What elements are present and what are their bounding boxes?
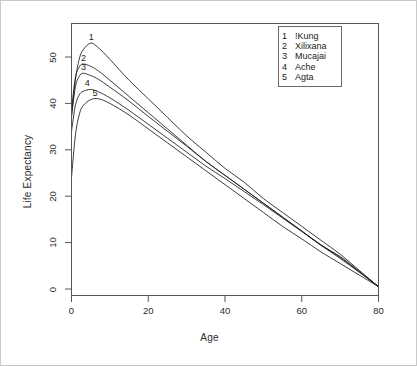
legend-key: 4 [282,62,295,72]
curve-4 [72,89,379,286]
curve-tag-3: 3 [81,62,86,72]
curve-3 [72,73,379,286]
y-tick-label: 30 [47,137,58,163]
y-axis-title: Life Expectancy [22,117,33,227]
legend-item: 4 Ache [279,62,341,72]
legend-box: 1 !Kung 2 Xilixana 3 Mucajai 4 Ache 5 Ag… [278,26,342,87]
curve-tag-1: 1 [89,32,94,42]
y-tick-label: 50 [47,44,58,70]
legend-label: Agta [295,72,338,82]
y-tick-label: 40 [47,90,58,116]
x-tick-label: 80 [364,305,394,316]
legend-item: 5 Agta [279,72,341,82]
x-tick-label: 20 [133,305,163,316]
legend-key: 1 [282,31,295,41]
x-tick-label: 0 [57,305,87,316]
legend-key: 2 [282,41,295,51]
x-tick-label: 60 [287,305,317,316]
legend-key: 3 [282,51,295,61]
legend-key: 5 [282,72,295,82]
x-axis-title: Age [1,332,417,343]
legend-item: 3 Mucajai [279,51,341,61]
y-tick-label: 0 [47,276,58,302]
curve-tag-5: 5 [93,88,98,98]
legend-item: 1 !Kung [279,31,341,41]
curve-tag-4: 4 [85,78,90,88]
y-tick-label: 20 [47,183,58,209]
legend-label: Xilixana [295,41,338,51]
legend-item: 2 Xilixana [279,41,341,51]
curve-5 [72,98,379,286]
legend-label: Ache [295,62,338,72]
legend-label: Mucajai [295,51,338,61]
y-tick-label: 10 [47,230,58,256]
x-tick-label: 40 [210,305,240,316]
legend-label: !Kung [295,31,338,41]
axis-lines [65,57,379,302]
chart-figure: Life Expectancy Age 02040608001020304050… [0,0,417,366]
